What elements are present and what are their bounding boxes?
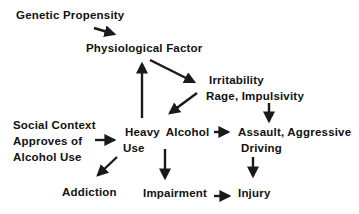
node-social-context: Social Context Approves of Alcohol Use (13, 117, 96, 165)
node-heavy-alcohol-use: Heavy Alcohol Use (123, 124, 209, 156)
node-genetic-propensity: Genetic Propensity (16, 7, 124, 23)
node-label: Social Context (13, 117, 96, 133)
node-label: Injury (238, 185, 271, 201)
node-label: Addiction (62, 184, 117, 200)
node-assault-aggressive-driving: Assault, Aggressive Driving (238, 124, 351, 156)
arrow-genetic-to-physio (94, 28, 114, 34)
node-label: Rage, Impulsivity (206, 88, 304, 104)
node-addiction: Addiction (62, 184, 117, 200)
node-impairment: Impairment (143, 185, 207, 201)
node-label: Alcohol Use (13, 149, 96, 165)
node-label: Driving (238, 140, 351, 156)
node-injury: Injury (238, 185, 271, 201)
arrow-heavy-to-addiction (98, 157, 117, 175)
node-label: Physiological Factor (86, 40, 202, 56)
node-label: Assault, Aggressive (238, 124, 351, 140)
arrow-irritability-to-heavy (170, 93, 197, 113)
arrow-physio-to-irritability (150, 60, 194, 82)
diagram-canvas: Genetic Propensity Physiological Factor … (0, 0, 359, 214)
node-label: Use (123, 140, 209, 156)
node-label: Heavy Alcohol (123, 124, 209, 140)
node-label: Genetic Propensity (16, 7, 124, 23)
node-label: Irritability (206, 72, 304, 88)
node-irritability: Irritability Rage, Impulsivity (206, 72, 304, 104)
node-label: Impairment (143, 185, 207, 201)
node-physiological-factor: Physiological Factor (86, 40, 202, 56)
arrows-layer (0, 0, 359, 214)
node-label: Approves of (13, 133, 96, 149)
